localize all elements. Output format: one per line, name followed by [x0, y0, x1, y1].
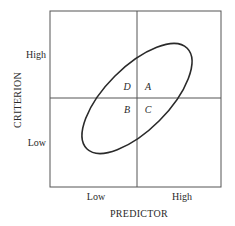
x-axis-title: PREDICTOR [110, 208, 168, 219]
quadrant-label-d: D [122, 81, 131, 92]
x-tick-high: High [172, 191, 192, 202]
y-tick-low: Low [28, 137, 47, 148]
quadrant-label-b: B [124, 104, 130, 115]
x-tick-low: Low [87, 191, 106, 202]
quadrant-label-a: A [144, 81, 152, 92]
quadrant-label-c: C [145, 104, 152, 115]
y-tick-high: High [26, 49, 46, 60]
y-axis-title: CRITERION [12, 72, 23, 128]
diagram-canvas: D A B C High Low CRITERION Low High PRED… [0, 0, 235, 226]
plot-frame [50, 11, 221, 187]
